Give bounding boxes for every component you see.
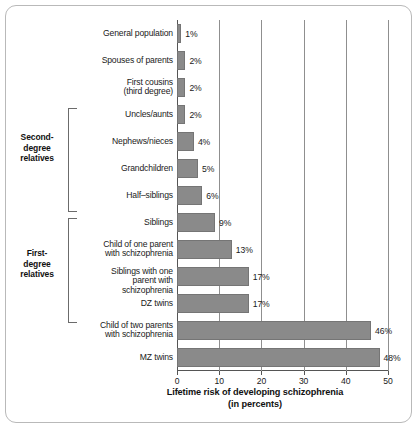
x-tick-40 [346, 371, 347, 375]
bar-row[interactable]: 13% [177, 240, 388, 259]
x-tick-0 [177, 371, 178, 375]
x-tick-20 [261, 371, 262, 375]
group-bracket-second-degree [68, 108, 77, 212]
x-tick-label-20: 20 [257, 376, 266, 386]
bar-row[interactable]: 5% [177, 159, 388, 178]
x-tick-10 [219, 371, 220, 375]
group-label-first-line2: degree [23, 259, 50, 269]
category-label-line: (third degree) [80, 87, 173, 97]
bar[interactable] [177, 51, 185, 70]
bar[interactable] [177, 267, 249, 286]
category-label-line: Siblings [144, 217, 173, 227]
category-label-line: Grandchildren [121, 163, 173, 173]
bar[interactable] [177, 78, 185, 97]
category-label-line: MZ twins [140, 352, 173, 362]
bar-row[interactable]: 1% [177, 24, 388, 43]
bar-row[interactable]: 2% [177, 51, 388, 70]
category-label: Spouses of parents [80, 56, 173, 66]
category-label: First cousins(third degree) [80, 78, 173, 97]
gridline-50 [388, 20, 389, 371]
category-label: Child of two parentswith schizophrenia [80, 321, 173, 340]
x-axis-title-line2: (in percents) [110, 398, 400, 410]
bar-row[interactable]: 46% [177, 321, 388, 340]
x-tick-50 [388, 371, 389, 375]
bar-row[interactable]: 9% [177, 213, 388, 232]
category-label-line: DZ twins [141, 298, 173, 308]
bar-value-label: 48% [384, 353, 401, 363]
bar-row[interactable]: 17% [177, 267, 388, 286]
bar[interactable] [177, 186, 202, 205]
bar-row[interactable]: 2% [177, 105, 388, 124]
category-label-line: parent with schizophrenia [80, 276, 173, 295]
group-label-first-line3: relatives [20, 269, 54, 279]
bar-value-label: 13% [236, 245, 253, 255]
bar-value-label: 1% [185, 29, 197, 39]
bar-value-label: 4% [198, 137, 210, 147]
group-label-second-line2: degree [23, 143, 50, 153]
category-label-line: with schizophrenia [80, 249, 173, 259]
bar-value-label: 5% [202, 164, 214, 174]
bar[interactable] [177, 213, 215, 232]
x-tick-label-40: 40 [341, 376, 350, 386]
category-label-line: General population [103, 28, 173, 38]
group-bracket-first-degree [68, 218, 77, 323]
bar-row[interactable]: 2% [177, 78, 388, 97]
x-axis-line [177, 370, 388, 371]
bar[interactable] [177, 294, 249, 313]
bar[interactable] [177, 159, 198, 178]
category-label: Siblings with oneparent with schizophren… [80, 267, 173, 296]
bar-value-label: 46% [375, 326, 392, 336]
x-axis-title: Lifetime risk of developing schizophreni… [110, 386, 400, 410]
bar[interactable] [177, 348, 380, 367]
group-label-second-line1: Second- [21, 132, 54, 142]
x-tick-30 [304, 371, 305, 375]
category-label-line: Half–siblings [126, 190, 173, 200]
category-label-line: Uncles/aunts [125, 109, 173, 119]
x-tick-label-30: 30 [299, 376, 308, 386]
category-label: Grandchildren [80, 164, 173, 174]
bar-row[interactable]: 4% [177, 132, 388, 151]
group-label-first-degree-relatives: First- degree relatives [8, 248, 66, 280]
group-label-second-line3: relatives [20, 153, 54, 163]
bar-row[interactable]: 17% [177, 294, 388, 313]
bar[interactable] [177, 24, 181, 43]
x-tick-label-10: 10 [215, 376, 224, 386]
group-label-first-line1: First- [27, 248, 48, 258]
bar[interactable] [177, 105, 185, 124]
bar-value-label: 17% [253, 272, 270, 282]
plot-area: 010203040501%2%2%2%4%5%6%9%13%17%17%46%4… [177, 20, 388, 371]
category-label: MZ twins [80, 353, 173, 363]
bar-value-label: 2% [189, 110, 201, 120]
x-tick-label-50: 50 [383, 376, 392, 386]
category-label-line: with schizophrenia [80, 330, 173, 340]
category-label-line: Spouses of parents [102, 55, 173, 65]
bar-value-label: 17% [253, 299, 270, 309]
category-label-line: Nephews/nieces [112, 136, 173, 146]
category-label: DZ twins [80, 299, 173, 309]
group-label-second-degree-relatives: Second- degree relatives [8, 132, 66, 164]
bar-row[interactable]: 6% [177, 186, 388, 205]
bar-row[interactable]: 48% [177, 348, 388, 367]
bar[interactable] [177, 132, 194, 151]
figure-bar-chart-schizophrenia-risk: Second- degree relatives First- degree r… [0, 0, 419, 430]
category-label: Half–siblings [80, 191, 173, 201]
category-label: Nephews/nieces [80, 137, 173, 147]
category-label: Uncles/aunts [80, 110, 173, 120]
bar-value-label: 6% [206, 191, 218, 201]
category-label: General population [80, 29, 173, 39]
bar-value-label: 9% [219, 218, 231, 228]
category-label: Child of one parentwith schizophrenia [80, 240, 173, 259]
category-label-column: General populationSpouses of parentsFirs… [80, 20, 173, 371]
x-axis-title-line1: Lifetime risk of developing schizophreni… [167, 387, 344, 397]
category-label: Siblings [80, 218, 173, 228]
bar[interactable] [177, 240, 232, 259]
bar[interactable] [177, 321, 371, 340]
x-tick-label-0: 0 [175, 376, 180, 386]
bar-value-label: 2% [189, 56, 201, 66]
bar-value-label: 2% [189, 83, 201, 93]
